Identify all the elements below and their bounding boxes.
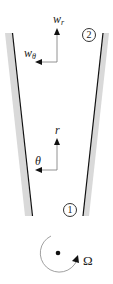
w-theta-arrowhead bbox=[35, 59, 42, 65]
label-w-r-main: w bbox=[53, 12, 61, 26]
station-2-marker: 2 bbox=[82, 28, 96, 42]
station-1-marker: 1 bbox=[63, 203, 77, 217]
label-theta: θ bbox=[35, 155, 41, 167]
label-w-r: wr bbox=[53, 13, 64, 27]
label-w-theta-main: w bbox=[24, 46, 32, 60]
right-wall-band bbox=[83, 33, 109, 216]
label-w-r-sub: r bbox=[61, 18, 64, 27]
label-omega: Ω bbox=[83, 254, 93, 267]
rotation-arrowhead-icon bbox=[72, 255, 79, 263]
label-w-theta: wθ bbox=[24, 47, 36, 61]
r-arrowhead bbox=[54, 138, 60, 145]
rotation-axis-dot bbox=[56, 251, 61, 256]
w-r-arrowhead bbox=[54, 28, 60, 35]
diagram-canvas bbox=[0, 0, 113, 284]
label-r: r bbox=[55, 124, 60, 136]
label-w-theta-sub: θ bbox=[32, 52, 36, 61]
right-wall-line bbox=[83, 33, 103, 216]
